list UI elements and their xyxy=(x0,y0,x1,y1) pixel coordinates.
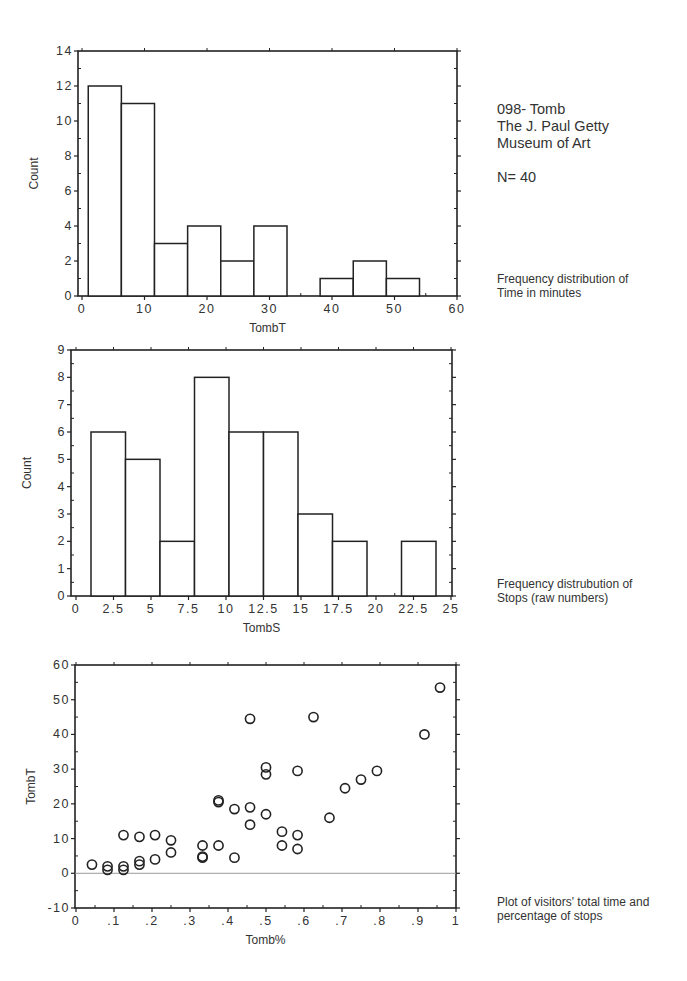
scatter-point xyxy=(356,775,365,784)
x-tick-label: 0 xyxy=(78,302,86,316)
y-tick-label: 1 xyxy=(58,562,66,576)
plot-frame xyxy=(75,665,456,908)
y-tick-label: 6 xyxy=(58,425,66,439)
x-tick-label: .9 xyxy=(411,914,424,928)
scatter-point xyxy=(325,813,334,822)
x-tick-label: .1 xyxy=(107,914,120,928)
histogram-bar xyxy=(402,541,437,596)
y-tick-label: 9 xyxy=(58,343,66,357)
scatter-point xyxy=(261,810,270,819)
y-tick-label: 2 xyxy=(65,254,73,268)
x-tick-label: 30 xyxy=(261,302,278,316)
x-tick-label: 50 xyxy=(386,302,403,316)
scatter-point xyxy=(309,712,318,721)
scatter-point xyxy=(245,820,254,829)
x-axis-label: TombS xyxy=(243,621,280,635)
scatter-point xyxy=(166,836,175,845)
x-tick-label: 22.5 xyxy=(398,602,428,616)
histogram-bar xyxy=(88,86,121,296)
x-tick-label: 0 xyxy=(72,914,80,928)
y-tick-label: 0 xyxy=(65,289,73,303)
y-tick-label: 5 xyxy=(58,452,66,466)
scatter-point xyxy=(150,855,159,864)
scatter-point xyxy=(277,841,286,850)
x-tick-label: 12.5 xyxy=(248,602,278,616)
x-axis-label: TombT xyxy=(249,321,286,335)
scatter-point xyxy=(340,784,349,793)
histogram-bar xyxy=(91,432,126,596)
scatter-point xyxy=(230,853,239,862)
scatter-point xyxy=(261,770,270,779)
y-tick-label: 12 xyxy=(56,79,73,93)
y-tick-label: 60 xyxy=(53,658,70,672)
y-tick-label: 7 xyxy=(58,398,66,412)
x-tick-label: 1 xyxy=(452,914,460,928)
scatter-point xyxy=(230,804,239,813)
x-tick-label: 20 xyxy=(199,302,216,316)
scatter-point xyxy=(166,848,175,857)
y-axis-label: TombT xyxy=(24,768,38,805)
scatter-point xyxy=(293,844,302,853)
histogram-bar xyxy=(195,377,230,596)
scatter-point xyxy=(420,730,429,739)
y-tick-label: 6 xyxy=(65,184,73,198)
y-tick-label: 10 xyxy=(53,832,70,846)
x-tick-label: 20 xyxy=(368,602,385,616)
y-tick-label: 2 xyxy=(58,534,66,548)
histogram-bar xyxy=(333,541,368,596)
y-tick-label: 20 xyxy=(53,797,70,811)
y-tick-label: 50 xyxy=(53,693,70,707)
histogram-bar xyxy=(386,279,419,297)
y-axis-label: Count xyxy=(27,157,41,190)
y-tick-label: 4 xyxy=(65,219,73,233)
x-tick-label: 25 xyxy=(443,602,460,616)
scatter-point xyxy=(245,714,254,723)
y-tick-label: 4 xyxy=(58,480,66,494)
x-tick-label: .3 xyxy=(183,914,196,928)
y-tick-label: 14 xyxy=(56,44,73,58)
x-tick-label: .4 xyxy=(221,914,234,928)
scatter-point xyxy=(245,803,254,812)
x-tick-label: .2 xyxy=(145,914,158,928)
scatter-plot: -1001020304050600.1.2.3.4.5.6.7.8.91Tomb… xyxy=(24,658,460,947)
x-tick-label: 40 xyxy=(324,302,341,316)
scatter-point xyxy=(150,831,159,840)
scatter-point xyxy=(435,683,444,692)
y-tick-label: 30 xyxy=(53,762,70,776)
scatter-point xyxy=(372,766,381,775)
time-histogram-panel: 024681012140102030405060TombTCount xyxy=(27,44,465,335)
y-tick-label: 0 xyxy=(58,589,66,603)
x-tick-label: 10 xyxy=(136,302,153,316)
x-tick-label: 2.5 xyxy=(103,602,125,616)
y-tick-label: 0 xyxy=(62,866,70,880)
x-tick-label: .6 xyxy=(297,914,310,928)
x-tick-label: .8 xyxy=(373,914,386,928)
histogram-bar xyxy=(160,541,195,596)
y-axis-label: Count xyxy=(20,456,34,489)
time-histogram: 024681012140102030405060TombTCount012345… xyxy=(0,0,687,981)
scatter-point xyxy=(198,841,207,850)
x-tick-label: 5 xyxy=(147,602,155,616)
histogram-bar xyxy=(121,104,154,297)
scatter-point xyxy=(293,831,302,840)
x-tick-label: 60 xyxy=(449,302,466,316)
x-axis-label: Tomb% xyxy=(245,933,285,947)
scatter-point xyxy=(293,766,302,775)
scatter-point xyxy=(87,860,96,869)
scatter-point xyxy=(119,831,128,840)
stops-histogram-panel: 012345678902.557.51012.51517.52022.525To… xyxy=(20,343,459,635)
histogram-bar xyxy=(298,514,333,596)
y-tick-label: 8 xyxy=(58,370,66,384)
histogram-bar xyxy=(254,226,287,296)
x-tick-label: .7 xyxy=(335,914,348,928)
histogram-bar xyxy=(188,226,221,296)
histogram-bar xyxy=(155,244,188,297)
x-tick-label: .5 xyxy=(259,914,272,928)
scatter-point xyxy=(135,832,144,841)
y-tick-label: 40 xyxy=(53,727,70,741)
x-tick-label: 10 xyxy=(218,602,235,616)
histogram-bar xyxy=(126,459,161,596)
x-tick-label: 0 xyxy=(72,602,80,616)
y-tick-label: -10 xyxy=(47,901,70,915)
histogram-bar xyxy=(353,261,386,296)
